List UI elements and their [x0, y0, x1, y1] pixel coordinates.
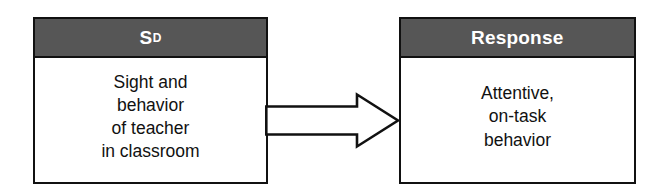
node-antecedent-header-superscript: D	[153, 32, 162, 44]
node-antecedent-header: SD	[35, 19, 266, 58]
node-antecedent-body-line: Sight and	[114, 71, 188, 94]
diagram-canvas: SD Sight and behavior of teacher in clas…	[0, 0, 667, 196]
node-antecedent: SD Sight and behavior of teacher in clas…	[33, 17, 268, 184]
node-response-body: Attentive, on-task behavior	[401, 58, 634, 182]
node-antecedent-body: Sight and behavior of teacher in classro…	[35, 58, 266, 182]
node-response: Response Attentive, on-task behavior	[399, 17, 636, 184]
node-response-header: Response	[401, 19, 634, 58]
node-response-header-label: Response	[471, 28, 563, 47]
node-response-body-line: Attentive,	[481, 82, 554, 105]
node-response-body-line: behavior	[484, 129, 551, 152]
node-antecedent-body-line: in classroom	[101, 140, 199, 163]
node-antecedent-header-label: S	[139, 28, 152, 47]
node-antecedent-body-line: behavior	[117, 94, 184, 117]
block-arrow-right-icon	[265, 92, 400, 149]
node-antecedent-body-line: of teacher	[112, 117, 190, 140]
node-response-body-line: on-task	[489, 105, 546, 128]
